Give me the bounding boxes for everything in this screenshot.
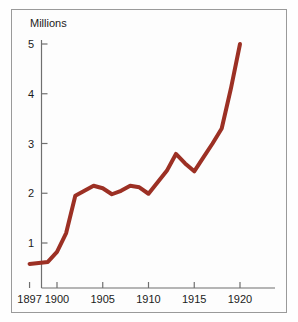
x-tick-label: 1900 — [45, 293, 69, 305]
chart-figure: 12345 189719001905191019151920 Millions — [0, 0, 298, 322]
data-series-line — [30, 44, 240, 264]
x-tick-label: 1915 — [182, 293, 206, 305]
x-tick-label: 1910 — [136, 293, 160, 305]
x-tick-label: 1897 — [17, 293, 41, 305]
y-tick-label: 4 — [28, 88, 34, 100]
y-tick-group: 12345 — [28, 38, 48, 249]
x-tick-label: 1920 — [228, 293, 252, 305]
x-tick-label: 1905 — [91, 293, 115, 305]
y-axis-title: Millions — [30, 17, 67, 29]
line-chart: 12345 189719001905191019151920 Millions — [0, 0, 298, 322]
y-tick-label: 1 — [28, 237, 34, 249]
y-tick-label: 5 — [28, 38, 34, 50]
x-tick-group: 189719001905191019151920 — [17, 282, 252, 305]
y-tick-label: 3 — [28, 138, 34, 150]
y-tick-label: 2 — [28, 187, 34, 199]
